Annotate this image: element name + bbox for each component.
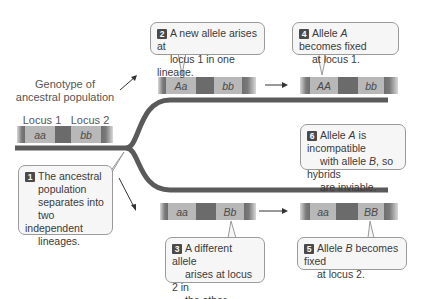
allele-symbol: B [346,242,353,254]
allele-symbol: A [349,129,356,141]
step-number-badge: 6 [307,131,317,141]
callout-text: two independent [25,209,83,234]
callout-text: Allele [317,242,346,254]
callout-text: with allele [307,155,369,167]
allele-symbol: B [369,155,376,167]
callout-text: separates into [25,196,104,208]
callout-text: the other lineage. [172,294,226,299]
callout-text: Allele [312,27,341,39]
callout-text: becomes fixed [299,40,367,52]
callout-step-1: 1The ancestral population separates into… [18,165,113,235]
callout-text: A new allele arises at [157,27,257,52]
callout-step-3: 3A different allele arises at locus 2 in… [165,237,265,283]
callout-text: Allele [320,129,349,141]
step-number-badge: 2 [157,29,167,39]
callout-step-4: 4Allele A becomes fixed at locus 1. [292,22,399,55]
callout-text: are inviable. [307,181,377,193]
callout-step-6: 6Allele A is incompatible with allele B,… [300,124,406,170]
callout-step-5: 5Allele B becomes fixed at locus 2. [297,237,407,270]
callout-text: population [25,183,86,195]
callout-text: The ancestral [38,170,102,182]
step-number-badge: 4 [299,29,309,39]
step-number-badge: 3 [172,244,182,254]
callout-step-2: 2A new allele arises at locus 1 in one l… [150,22,265,55]
callout-text: at locus 2. [304,268,365,280]
step-number-badge: 1 [25,172,35,182]
step-number-badge: 5 [304,244,314,254]
allele-symbol: A [341,27,348,39]
callout-text: lineages. [25,235,80,247]
callout-text: at locus 1. [299,53,360,65]
